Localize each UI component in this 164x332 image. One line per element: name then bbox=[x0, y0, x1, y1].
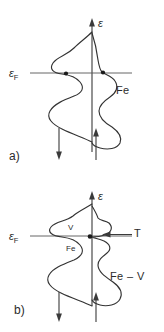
spin-down-arrow-b bbox=[56, 292, 62, 322]
fermi-level-label-a: εF bbox=[9, 68, 18, 82]
v-peak-label: V bbox=[68, 224, 73, 232]
dos-curve-spin-up-b bbox=[92, 206, 121, 306]
t-pointer-label: T bbox=[134, 228, 141, 239]
energy-axis-label-b: ε bbox=[98, 191, 103, 202]
panel-label-a: a) bbox=[9, 150, 20, 162]
t-pointer-arrow-b bbox=[102, 232, 132, 238]
energy-axis-label-a: ε bbox=[98, 18, 103, 29]
fe-peak-label: Fe bbox=[66, 245, 75, 253]
fermi-sub-glyph-a: F bbox=[14, 73, 19, 82]
fermi-sub-glyph-b: F bbox=[14, 236, 19, 245]
energy-axis-b bbox=[89, 191, 95, 306]
spin-up-arrow-b bbox=[93, 292, 99, 322]
panel-b-fe-v: ε εF V Fe T Fe – V b) bbox=[0, 166, 164, 332]
dos-curve-spin-down-b bbox=[48, 204, 92, 306]
panel-a-fe: ε εF Fe a) bbox=[0, 0, 164, 166]
spin-up-arrow-a bbox=[93, 128, 99, 160]
fermi-crossing-dot-b bbox=[88, 234, 93, 239]
fermi-crossing-dot-down-a bbox=[64, 71, 68, 75]
dos-figure: ε εF Fe a) bbox=[0, 0, 164, 332]
fermi-level-label-b: εF bbox=[9, 231, 18, 245]
fermi-crossing-dot-up-a bbox=[101, 70, 105, 74]
material-label-fe-v: Fe – V bbox=[110, 271, 145, 282]
panel-a-drawing bbox=[0, 0, 164, 166]
panel-label-b: b) bbox=[14, 304, 25, 316]
spin-down-arrow-a bbox=[56, 128, 62, 160]
material-label-fe: Fe bbox=[116, 85, 130, 96]
dos-curve-spin-down-a bbox=[49, 32, 92, 142]
